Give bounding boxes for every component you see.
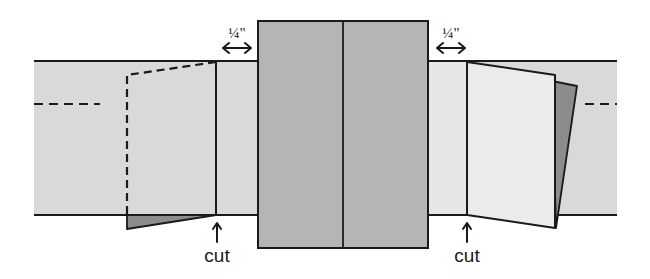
right-cut-arrow-icon [463, 223, 471, 242]
left-cut-label: cut [204, 245, 230, 266]
right-measure-label: ¼" [442, 25, 459, 41]
left-dark-flap [127, 215, 216, 229]
left-double-arrow-icon [223, 43, 251, 53]
left-cut-arrow-icon [213, 223, 221, 242]
right-double-arrow-icon [437, 43, 465, 53]
right-light-strip [429, 62, 467, 214]
folding-diagram: ¼" ¼" cut cut [0, 0, 650, 279]
left-measure-label: ¼" [228, 25, 245, 41]
right-cut-label: cut [454, 245, 480, 266]
right-light-flap [467, 62, 555, 228]
